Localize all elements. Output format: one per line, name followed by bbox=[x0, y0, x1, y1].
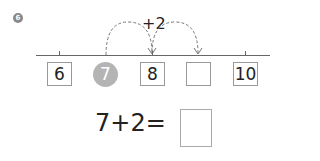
tick bbox=[152, 51, 153, 56]
answer-box[interactable] bbox=[180, 109, 212, 147]
number-box-6: 6 bbox=[47, 62, 72, 86]
number-box-10: 10 bbox=[233, 62, 258, 86]
blank-number-box[interactable] bbox=[186, 62, 211, 86]
tick bbox=[59, 51, 60, 56]
equation: 7+2= bbox=[95, 109, 166, 137]
highlighted-number-7: 7 bbox=[93, 62, 118, 87]
tick bbox=[245, 51, 246, 56]
number-line bbox=[36, 55, 270, 56]
number-box-8: 8 bbox=[140, 62, 165, 86]
